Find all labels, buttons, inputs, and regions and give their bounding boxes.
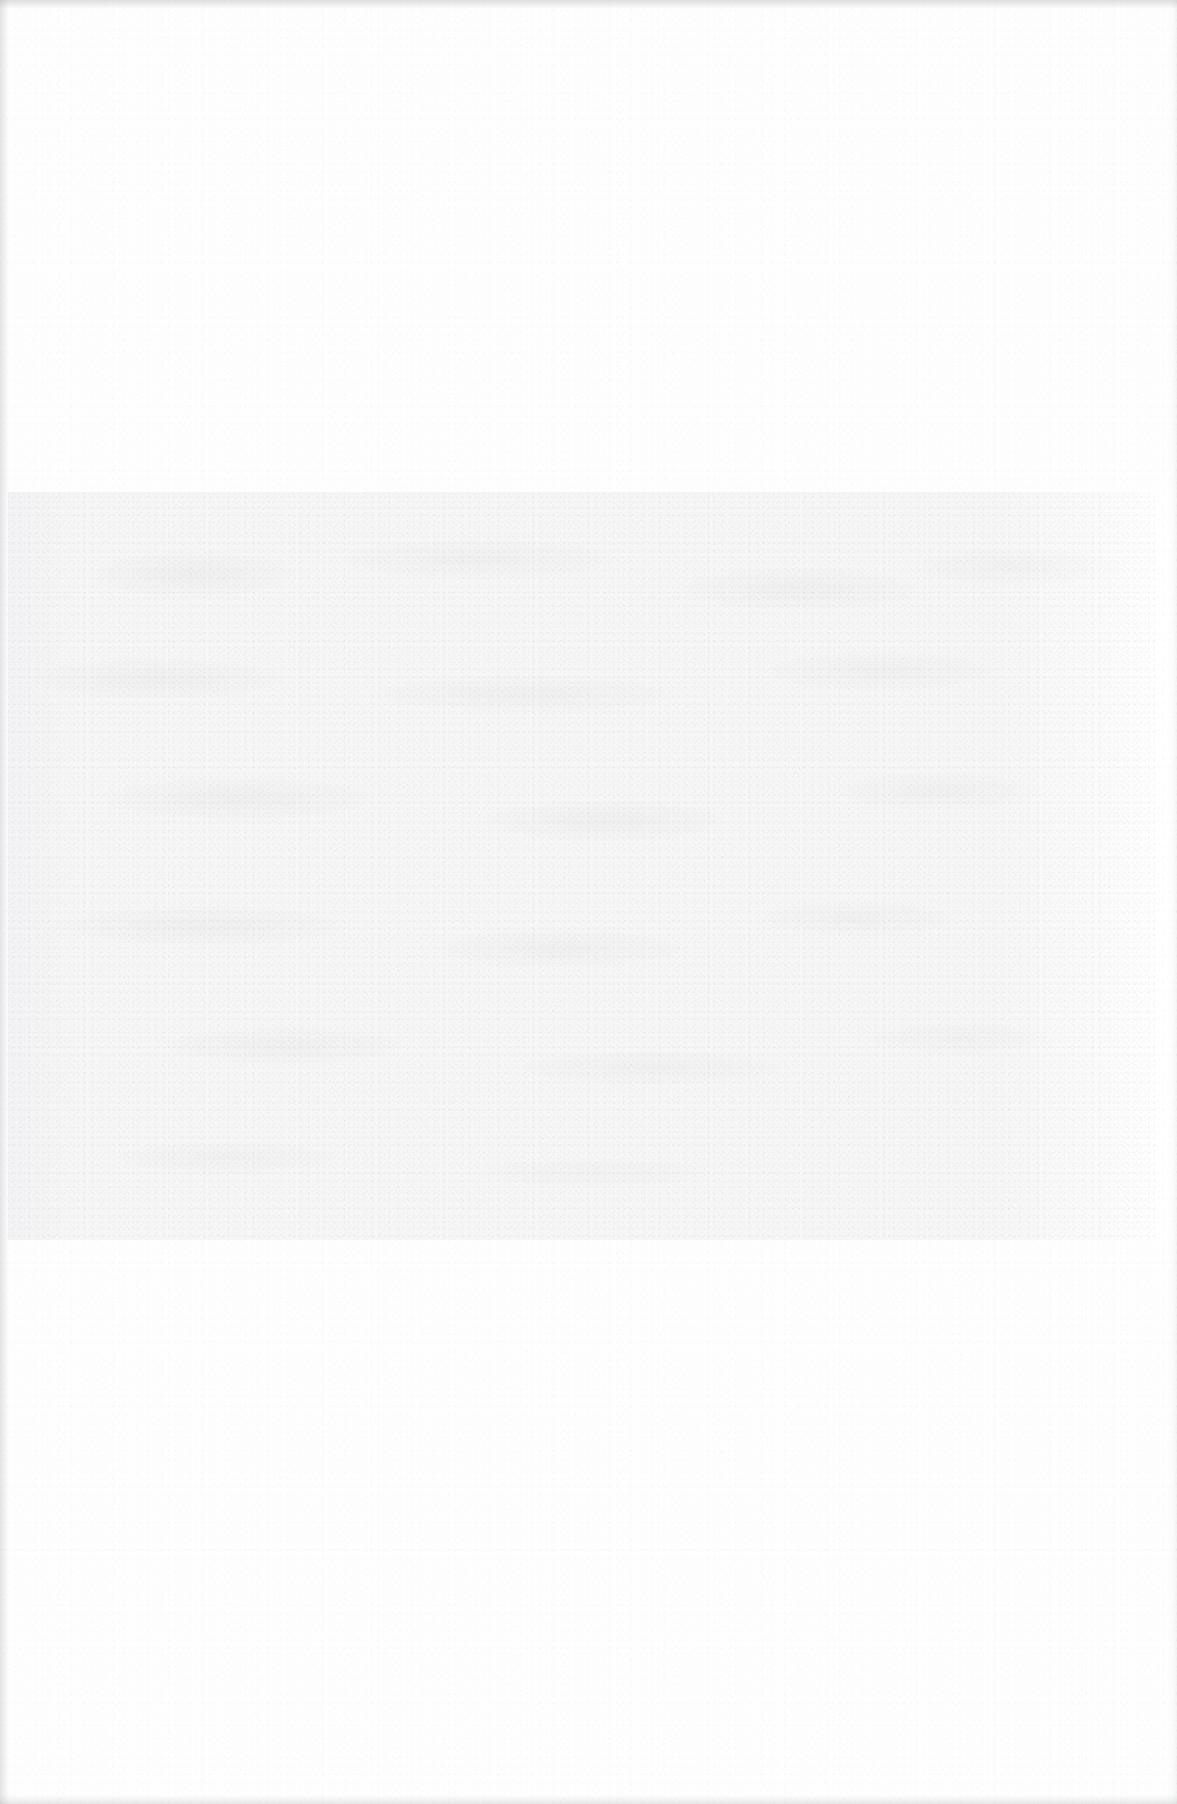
- content-band-text: [7, 491, 8, 492]
- band-speckle-texture: [8, 492, 1155, 1240]
- bottom-margin: [0, 1240, 1177, 1804]
- ghost-text-residue: [8, 492, 1155, 1240]
- top-margin: [0, 0, 1177, 492]
- faded-content-band: [8, 492, 1155, 1240]
- scanned-page: Page is blank to the eye — overexposed /…: [0, 0, 1177, 1804]
